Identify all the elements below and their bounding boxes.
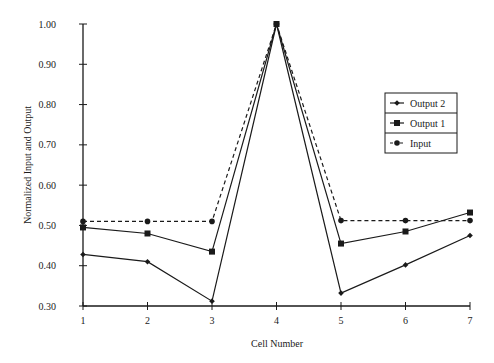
y-tick-label: 0.30 [39, 301, 57, 312]
circle-marker [338, 218, 344, 224]
series-line [83, 24, 470, 301]
legend-item-label: Input [410, 138, 431, 149]
legend-marker-icon [394, 120, 400, 126]
series-output-2 [80, 21, 473, 304]
x-tick-label: 6 [403, 315, 408, 326]
diamond-marker [403, 262, 409, 268]
legend: Output 2Output 1Input [385, 93, 457, 153]
square-marker [80, 224, 86, 230]
x-tick-label: 2 [145, 315, 150, 326]
square-marker [145, 230, 151, 236]
legend-item-label: Output 2 [410, 98, 445, 109]
diamond-marker [145, 259, 151, 265]
x-tick-label: 7 [468, 315, 473, 326]
y-tick-label: 0.70 [39, 139, 57, 150]
x-tick-label: 5 [339, 315, 344, 326]
square-marker [467, 210, 473, 216]
line-chart: 0.300.400.500.600.700.800.901.001234567 … [0, 0, 494, 363]
y-tick-label: 1.00 [39, 19, 57, 30]
x-axis-title: Cell Number [251, 338, 304, 349]
x-tick-label: 4 [274, 315, 279, 326]
x-tick-label: 3 [210, 315, 215, 326]
diamond-marker [467, 233, 473, 239]
square-marker [338, 241, 344, 247]
y-tick-label: 0.40 [39, 260, 57, 271]
axes: 0.300.400.500.600.700.800.901.001234567 [39, 19, 473, 327]
y-tick-label: 0.90 [39, 59, 57, 70]
circle-marker [467, 218, 473, 224]
diamond-marker [209, 298, 215, 304]
legend-marker-icon [394, 140, 400, 146]
diamond-marker [338, 290, 344, 296]
square-marker [209, 249, 215, 255]
circle-marker [209, 219, 215, 225]
circle-marker [145, 219, 151, 225]
diamond-marker [80, 252, 86, 258]
y-tick-label: 0.50 [39, 220, 57, 231]
y-tick-label: 0.80 [39, 99, 57, 110]
circle-marker [80, 219, 86, 225]
circle-marker [403, 218, 409, 224]
series-group [80, 21, 473, 304]
legend-item-label: Output 1 [410, 118, 445, 129]
y-axis-title: Normalized Input and Output [22, 106, 33, 224]
square-marker [403, 228, 409, 234]
y-tick-label: 0.60 [39, 180, 57, 191]
x-tick-label: 1 [81, 315, 86, 326]
